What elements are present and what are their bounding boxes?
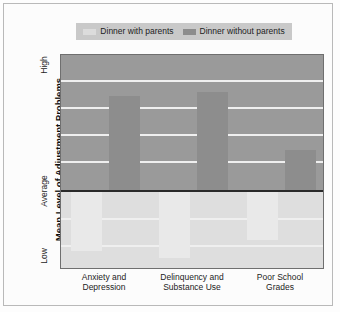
bar-anxiety-with-parents [71,191,102,251]
gridline [61,80,323,82]
bar-grades-without-parents [285,150,316,191]
bar-delinquency-without-parents [197,92,228,191]
y-tick-label-average: Average [39,171,49,211]
plot-band-above-average [61,55,323,191]
x-category-label-line1: Anxiety and [60,272,148,282]
bar-grades-with-parents [247,191,278,240]
chart-legend: Dinner with parents Dinner without paren… [76,23,292,40]
x-category-label-grades: Poor School Grades [236,272,324,292]
legend-entry-dinner-with-parents: Dinner with parents [83,27,173,36]
chart-plot-area [60,54,324,269]
x-category-label-line2: Depression [60,282,148,292]
gridline [61,107,323,109]
x-category-label-anxiety: Anxiety and Depression [60,272,148,292]
scan-page-frame: Dinner with parents Dinner without paren… [3,3,333,306]
x-category-label-line1: Delinquency and [148,272,236,282]
y-tick-label-low: Low [39,244,49,268]
bar-anxiety-without-parents [109,96,140,191]
average-reference-line [61,190,323,192]
gridline [61,134,323,136]
legend-label-without-parents: Dinner without parents [200,27,285,36]
gridline [61,161,323,163]
x-category-label-line2: Substance Use [148,282,236,292]
legend-entry-dinner-without-parents: Dinner without parents [183,27,285,36]
x-category-label-delinquency: Delinquency and Substance Use [148,272,236,292]
y-tick-label-high: High [39,52,49,78]
bar-delinquency-with-parents [159,191,190,258]
x-category-label-line2: Grades [236,282,324,292]
legend-label-with-parents: Dinner with parents [100,27,173,36]
legend-swatch-icon-with-parents [83,29,96,35]
legend-swatch-icon-without-parents [183,29,196,35]
x-category-label-line1: Poor School [236,272,324,282]
